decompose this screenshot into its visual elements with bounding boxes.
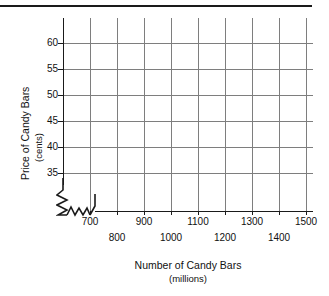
gridline-horizontal-60 (63, 43, 313, 44)
x-axis-title-units: (millions) (63, 273, 313, 285)
gridline-horizontal-55 (63, 69, 313, 70)
gridline-vertical-700 (90, 18, 91, 211)
x-tick-1400 (279, 211, 280, 215)
x-tick-1000 (171, 211, 172, 215)
gridline-vertical-900 (144, 18, 145, 211)
x-tick-1100 (198, 211, 199, 215)
gridline-horizontal-45 (63, 121, 313, 122)
x-tick-label-1100: 1100 (181, 217, 215, 227)
x-axis-title-text: Number of Candy Bars (135, 259, 242, 271)
y-tick-45 (58, 121, 63, 122)
y-axis-spine (63, 18, 64, 185)
gridline-vertical-1100 (198, 18, 199, 211)
y-axis-title: Price of Candy Bars (cents) (8, 42, 52, 182)
x-tick-1300 (252, 211, 253, 215)
x-tick-label-800: 800 (100, 233, 134, 243)
x-tick-label-700: 700 (73, 217, 107, 227)
gridline-vertical-1500 (306, 18, 307, 211)
y-axis-title-text: Price of Candy Bars (20, 87, 31, 180)
gridline-vertical-800 (117, 18, 118, 211)
x-tick-label-1300: 1300 (235, 217, 269, 227)
y-tick-60 (58, 43, 63, 44)
y-axis-title-units: (cents) (33, 133, 44, 162)
x-axis-title: Number of Candy Bars (millions) (63, 259, 313, 285)
x-tick-label-900: 900 (127, 217, 161, 227)
x-tick-label-1200: 1200 (208, 233, 242, 243)
y-tick-55 (58, 69, 63, 70)
y-tick-35 (58, 173, 63, 174)
plot-area (63, 18, 313, 213)
gridline-horizontal-40 (63, 147, 313, 148)
x-tick-label-1400: 1400 (262, 233, 296, 243)
gridline-horizontal-50 (63, 95, 313, 96)
chart-figure: 60 55 50 45 40 35 700 900 1100 1300 1500… (0, 0, 329, 296)
x-tick-900 (144, 211, 145, 215)
gridline-horizontal-35 (63, 173, 313, 174)
x-axis-spine (95, 211, 313, 212)
x-tick-1500 (306, 211, 307, 215)
x-tick-label-1000: 1000 (154, 233, 188, 243)
x-tick-700 (90, 211, 91, 215)
y-tick-40 (58, 147, 63, 148)
x-tick-800 (117, 211, 118, 215)
y-tick-50 (58, 95, 63, 96)
gridline-vertical-1200 (225, 18, 226, 211)
gridline-vertical-1400 (279, 18, 280, 211)
x-tick-label-1500: 1500 (289, 217, 323, 227)
header-rule (0, 5, 312, 7)
x-tick-1200 (225, 211, 226, 215)
gridline-vertical-1000 (171, 18, 172, 211)
gridline-vertical-1300 (252, 18, 253, 211)
